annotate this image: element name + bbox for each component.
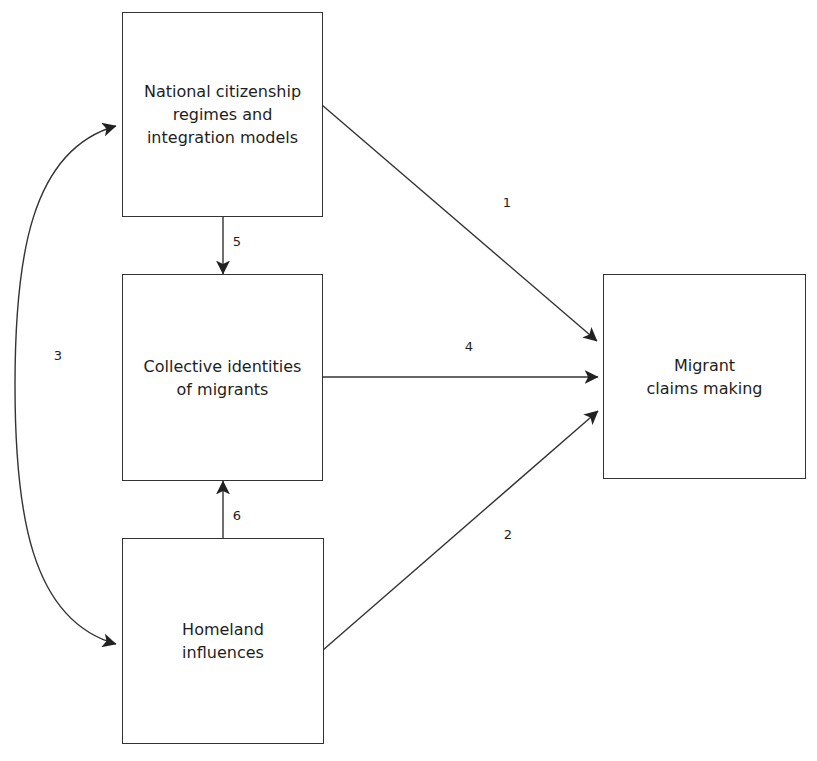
edge-label-1: 1	[503, 196, 511, 210]
node-national-citizenship-regimes: National citizenship regimes and integra…	[122, 12, 323, 217]
node-collective-identities: Collective identities of migrants	[122, 274, 323, 481]
node-label: Homeland influences	[182, 618, 264, 664]
causal-model-diagram: National citizenship regimes and integra…	[0, 0, 817, 761]
node-homeland-influences: Homeland influences	[122, 538, 324, 744]
node-label: Migrant claims making	[647, 354, 763, 400]
edge-label-6: 6	[233, 509, 241, 523]
edge-3-curved-arrow	[15, 126, 116, 644]
edge-label-4: 4	[465, 340, 473, 354]
edge-label-2: 2	[504, 528, 512, 542]
edge-2-arrow	[323, 411, 598, 650]
node-label: Collective identities of migrants	[144, 355, 302, 401]
node-label: National citizenship regimes and integra…	[144, 80, 301, 149]
edge-1-arrow	[322, 105, 597, 341]
edge-label-5: 5	[233, 235, 241, 249]
node-migrant-claims-making: Migrant claims making	[603, 274, 806, 479]
edge-label-3: 3	[54, 349, 62, 363]
